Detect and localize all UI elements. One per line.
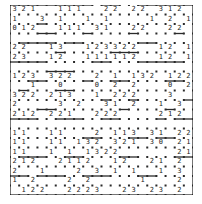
clue-cell[interactable]: 2	[147, 186, 156, 196]
clue-cell[interactable]	[102, 138, 111, 148]
clue-cell[interactable]	[92, 15, 101, 25]
clue-cell[interactable]	[37, 110, 46, 120]
clue-cell[interactable]: 1	[83, 53, 92, 63]
clue-cell[interactable]	[92, 176, 101, 186]
clue-cell[interactable]	[138, 167, 147, 177]
clue-cell[interactable]	[156, 176, 165, 186]
clue-cell[interactable]: 2	[175, 157, 184, 167]
clue-cell[interactable]: 2	[83, 157, 92, 167]
clue-cell[interactable]: 3	[156, 5, 165, 15]
clue-cell[interactable]	[147, 119, 156, 129]
clue-cell[interactable]	[19, 34, 28, 44]
clue-cell[interactable]: 2	[129, 91, 138, 101]
clue-cell[interactable]	[147, 176, 156, 186]
clue-cell[interactable]: 2	[92, 129, 101, 139]
clue-cell[interactable]	[138, 53, 147, 63]
clue-cell[interactable]: 2	[175, 129, 184, 139]
clue-cell[interactable]	[166, 138, 175, 148]
clue-cell[interactable]: 3	[92, 186, 101, 196]
clue-cell[interactable]: 1	[19, 129, 28, 139]
clue-cell[interactable]	[74, 53, 83, 63]
clue-cell[interactable]: 1	[10, 176, 19, 186]
clue-cell[interactable]: 3	[28, 72, 37, 82]
clue-cell[interactable]	[184, 34, 193, 44]
clue-cell[interactable]: 3	[111, 138, 120, 148]
clue-cell[interactable]: 3	[156, 186, 165, 196]
clue-cell[interactable]: 2	[92, 43, 101, 53]
clue-cell[interactable]	[92, 119, 101, 129]
clue-cell[interactable]	[175, 34, 184, 44]
clue-cell[interactable]: 2	[129, 43, 138, 53]
clue-cell[interactable]	[175, 43, 184, 53]
clue-cell[interactable]: 1	[19, 148, 28, 158]
clue-cell[interactable]	[129, 176, 138, 186]
clue-cell[interactable]: 1	[56, 5, 65, 15]
clue-cell[interactable]: 2	[28, 157, 37, 167]
clue-cell[interactable]: 1	[166, 5, 175, 15]
clue-cell[interactable]	[102, 119, 111, 129]
clue-cell[interactable]: 3	[92, 24, 101, 34]
clue-cell[interactable]	[166, 119, 175, 129]
clue-cell[interactable]: 2	[175, 186, 184, 196]
clue-cell[interactable]	[10, 81, 19, 91]
clue-cell[interactable]	[65, 167, 74, 177]
clue-cell[interactable]	[28, 15, 37, 25]
clue-cell[interactable]: 1	[102, 15, 111, 25]
clue-cell[interactable]	[37, 62, 46, 72]
clue-cell[interactable]	[47, 81, 56, 91]
clue-cell[interactable]: 2	[184, 81, 193, 91]
clue-cell[interactable]: 3	[175, 167, 184, 177]
clue-cell[interactable]	[184, 167, 193, 177]
clue-cell[interactable]	[111, 62, 120, 72]
clue-cell[interactable]: 2	[47, 91, 56, 101]
clue-cell[interactable]	[138, 129, 147, 139]
clue-cell[interactable]	[83, 110, 92, 120]
clue-cell[interactable]	[111, 186, 120, 196]
clue-cell[interactable]	[92, 34, 101, 44]
clue-cell[interactable]: 2	[10, 157, 19, 167]
clue-cell[interactable]	[184, 186, 193, 196]
clue-cell[interactable]	[37, 91, 46, 101]
clue-cell[interactable]	[147, 148, 156, 158]
clue-cell[interactable]	[83, 91, 92, 101]
clue-cell[interactable]	[65, 53, 74, 63]
clue-cell[interactable]: 2	[10, 100, 19, 110]
clue-cell[interactable]: 2	[184, 129, 193, 139]
clue-cell[interactable]	[74, 119, 83, 129]
clue-cell[interactable]	[156, 62, 165, 72]
clue-cell[interactable]	[111, 34, 120, 44]
clue-cell[interactable]	[74, 15, 83, 25]
clue-cell[interactable]	[10, 34, 19, 44]
clue-cell[interactable]: 3	[56, 43, 65, 53]
clue-cell[interactable]: 2	[74, 100, 83, 110]
clue-cell[interactable]	[102, 157, 111, 167]
clue-cell[interactable]	[65, 62, 74, 72]
clue-cell[interactable]	[65, 81, 74, 91]
clue-cell[interactable]: 1	[28, 5, 37, 15]
clue-cell[interactable]: 2	[56, 157, 65, 167]
clue-cell[interactable]	[37, 100, 46, 110]
clue-cell[interactable]: 1	[156, 100, 165, 110]
clue-cell[interactable]	[102, 81, 111, 91]
clue-cell[interactable]: 2	[83, 186, 92, 196]
clue-cell[interactable]: 1	[19, 138, 28, 148]
clue-cell[interactable]	[47, 100, 56, 110]
clue-cell[interactable]	[129, 157, 138, 167]
clue-cell[interactable]: 1	[65, 148, 74, 158]
clue-cell[interactable]: 1	[111, 167, 120, 177]
clue-cell[interactable]: 1	[156, 167, 165, 177]
clue-cell[interactable]: 2	[56, 72, 65, 82]
clue-cell[interactable]: 1	[111, 100, 120, 110]
clue-cell[interactable]: 3	[37, 15, 46, 25]
clue-cell[interactable]: 1	[111, 53, 120, 63]
clue-cell[interactable]	[56, 34, 65, 44]
clue-cell[interactable]	[102, 62, 111, 72]
clue-cell[interactable]: 3	[10, 91, 19, 101]
clue-cell[interactable]	[138, 15, 147, 25]
clue-cell[interactable]	[111, 176, 120, 186]
clue-cell[interactable]: 2	[120, 186, 129, 196]
clue-cell[interactable]	[166, 148, 175, 158]
clue-cell[interactable]: 1	[166, 72, 175, 82]
clue-cell[interactable]: 2	[129, 24, 138, 34]
clue-cell[interactable]	[47, 157, 56, 167]
